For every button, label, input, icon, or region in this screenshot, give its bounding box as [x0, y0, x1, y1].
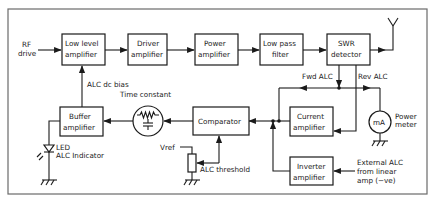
rf-drive-input: RF drive — [18, 40, 61, 58]
fwd-alc-label: Fwd ALC — [302, 72, 333, 81]
power-amplifier-line1: Power — [204, 39, 226, 48]
vref-label: Vref — [160, 143, 175, 152]
inverter-amplifier-block: Inverter amplifier — [290, 157, 333, 185]
rf-drive-label-line1: RF — [22, 40, 31, 49]
inverter-amplifier-line1: Inverter — [297, 162, 326, 171]
buffer-amplifier-block: Buffer amplifier — [60, 107, 103, 136]
external-alc-input: External ALC from linear amp (−ve) — [357, 158, 403, 185]
meter-unit-label: mA — [373, 118, 385, 127]
comparator-block: Comparator — [193, 107, 249, 135]
swr-detector-block: SWR detector — [327, 34, 370, 65]
low-pass-filter-line1: Low pass — [263, 39, 296, 48]
current-amplifier-block: Current amplifier — [290, 107, 333, 136]
inverter-amplifier-line2: amplifier — [293, 173, 325, 182]
time-constant-network: Time constant — [119, 90, 171, 136]
low-pass-filter-line2: filter — [272, 50, 289, 59]
ground-icon — [372, 141, 388, 146]
rev-alc-label: Rev ALC — [358, 72, 388, 81]
low-level-amplifier-block: Low level amplifier — [62, 34, 105, 65]
time-constant-label: Time constant — [119, 90, 171, 99]
resistor-icon — [188, 154, 196, 172]
power-amplifier-line2: amplifier — [198, 50, 230, 59]
current-amplifier-line1: Current — [297, 112, 324, 121]
led-icon — [44, 145, 54, 152]
comparator-label: Comparator — [198, 117, 241, 126]
buffer-amplifier-line1: Buffer — [69, 112, 91, 121]
power-meter-label-line2: meter — [395, 120, 417, 129]
current-amplifier-line2: amplifier — [293, 123, 325, 132]
alc-dc-bias-label: ALC dc bias — [87, 80, 129, 89]
driver-amplifier-line1: Driver — [137, 39, 159, 48]
alc-threshold-label: ALC threshold — [200, 165, 250, 174]
external-alc-label-line1: External ALC — [357, 158, 403, 167]
swr-detector-line2: detector — [331, 50, 361, 59]
low-level-amplifier-line1: Low level — [65, 39, 99, 48]
low-pass-filter-block: Low pass filter — [260, 34, 303, 65]
driver-amplifier-line2: amplifier — [131, 50, 163, 59]
alc-indicator-label: ALC Indicator — [56, 151, 104, 160]
ground-icon — [184, 180, 200, 185]
power-meter: mA Power meter — [369, 111, 417, 146]
low-level-amplifier-line2: amplifier — [65, 50, 97, 59]
antenna-icon — [385, 18, 398, 50]
buffer-amplifier-line2: amplifier — [63, 123, 95, 132]
driver-amplifier-block: Driver amplifier — [128, 34, 167, 65]
alc-threshold-potentiometer: Vref ALC threshold — [160, 136, 250, 185]
swr-detector-line1: SWR — [338, 39, 355, 48]
power-amplifier-block: Power amplifier — [195, 34, 238, 65]
alc-block-diagram: RF drive Low level amplifier Driver ampl… — [0, 0, 434, 204]
external-alc-label-line3: amp (−ve) — [357, 176, 396, 185]
external-alc-label-line2: from linear — [357, 167, 396, 176]
rf-drive-label-line2: drive — [18, 49, 37, 58]
ground-icon — [41, 180, 57, 185]
